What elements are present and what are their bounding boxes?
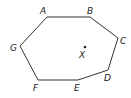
heptagon-outline <box>20 17 118 80</box>
vertex-label-a: A <box>39 6 46 16</box>
vertex-label-c: C <box>120 36 127 46</box>
point-label-x: X <box>78 50 86 60</box>
vertex-label-g: G <box>10 43 17 53</box>
vertex-label-f: F <box>33 83 39 93</box>
point-x-dot <box>84 46 87 49</box>
vertex-label-b: B <box>87 6 93 16</box>
polygon-diagram: A B C D E F G X <box>0 0 131 98</box>
vertex-label-e: E <box>74 83 80 93</box>
vertex-label-d: D <box>104 73 111 83</box>
